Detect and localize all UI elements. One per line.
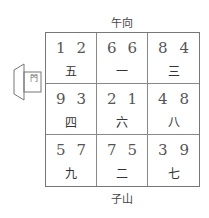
water-star: 8 <box>179 90 189 108</box>
base-star: 五 <box>46 62 96 79</box>
water-star: 3 <box>76 90 86 108</box>
mountain-star: 2 <box>107 90 117 108</box>
mountain-star: 4 <box>158 90 168 108</box>
mountain-star: 8 <box>158 39 168 57</box>
mountain-star: 3 <box>158 141 168 159</box>
water-star: 5 <box>127 141 137 159</box>
base-star: 七 <box>148 164 199 181</box>
palace-cell: 6 6 一 <box>97 33 148 84</box>
sitting-label: 子山 <box>92 190 152 206</box>
base-star: 九 <box>46 164 96 181</box>
palace-cell: 4 8 八 <box>148 84 199 135</box>
water-star: 7 <box>76 141 86 159</box>
base-star: 八 <box>148 113 199 130</box>
base-star: 二 <box>97 164 147 181</box>
base-star: 三 <box>148 62 199 79</box>
mountain-star: 6 <box>107 39 117 57</box>
water-star: 2 <box>76 39 86 57</box>
water-star: 1 <box>127 90 137 108</box>
mountain-star: 1 <box>56 39 66 57</box>
base-star: 一 <box>97 62 147 79</box>
palace-cell: 2 1 六 <box>97 84 148 135</box>
flying-star-chart: 1 2 五 6 6 一 8 4 三 9 3 四 2 1 六 4 8 八 5 7 … <box>45 32 200 187</box>
palace-cell: 8 4 三 <box>148 33 199 84</box>
palace-cell: 9 3 四 <box>46 84 97 135</box>
water-star: 9 <box>179 141 189 159</box>
water-star: 4 <box>179 39 189 57</box>
palace-cell: 7 5 二 <box>97 135 148 186</box>
palace-cell: 1 2 五 <box>46 33 97 84</box>
palace-cell: 3 9 七 <box>148 135 199 186</box>
mountain-star: 9 <box>56 90 66 108</box>
door-icon: 門 <box>12 62 44 102</box>
facing-label: 午向 <box>92 14 152 30</box>
base-star: 四 <box>46 113 96 130</box>
mountain-star: 7 <box>107 141 117 159</box>
water-star: 6 <box>127 39 137 57</box>
base-star: 六 <box>97 113 147 130</box>
door-label: 門 <box>27 74 38 82</box>
palace-cell: 5 7 九 <box>46 135 97 186</box>
mountain-star: 5 <box>56 141 66 159</box>
